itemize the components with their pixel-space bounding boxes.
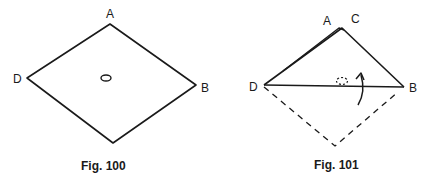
label-d: D <box>249 80 258 94</box>
fold-base-line <box>264 85 404 87</box>
figure-101: A C D B Fig. 101 <box>249 12 417 172</box>
label-c: C <box>351 12 360 26</box>
label-d: D <box>13 72 22 86</box>
label-b: B <box>201 81 209 95</box>
fold-arrow-icon <box>358 75 363 105</box>
dashed-hole-icon <box>337 78 348 85</box>
label-a: A <box>106 7 114 21</box>
diagram-canvas: A B D Fig. 100 A C D B Fig. 101 <box>0 0 431 178</box>
square-diamond <box>27 24 196 143</box>
label-a: A <box>323 14 331 28</box>
center-hole-icon <box>101 75 111 81</box>
label-b: B <box>409 81 417 95</box>
figure-100: A B D Fig. 100 <box>13 7 209 173</box>
caption-fig-100: Fig. 100 <box>81 159 126 173</box>
arrowhead-icon <box>356 73 364 80</box>
dashed-original-outline <box>264 87 398 146</box>
caption-fig-101: Fig. 101 <box>314 158 359 172</box>
folded-top-edge-c <box>264 28 404 87</box>
